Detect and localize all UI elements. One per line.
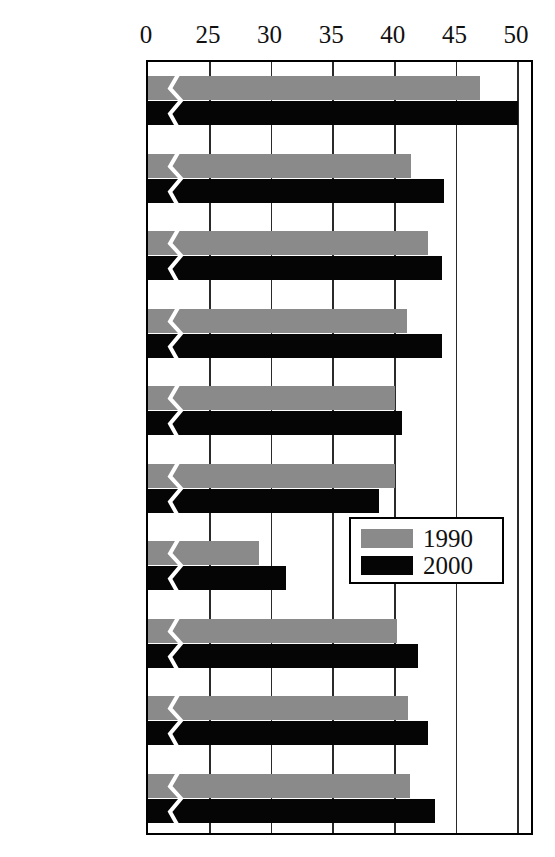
bar-2000-g7-average bbox=[148, 644, 418, 668]
legend-swatch-icon bbox=[361, 556, 413, 575]
bar-1990-britain bbox=[148, 386, 395, 410]
legend-item: 2000 bbox=[361, 553, 502, 578]
bar-1990-united-states bbox=[148, 541, 259, 565]
plot-area bbox=[146, 60, 533, 835]
x-axis-tick-label: 25 bbox=[196, 22, 221, 47]
bar-1990-g7-average bbox=[148, 619, 397, 643]
bar-1990-italy bbox=[148, 309, 407, 333]
bar-1990-oecd-excl-g7-average bbox=[148, 774, 410, 798]
legend-item: 1990 bbox=[361, 526, 502, 551]
bar-1990-oecd-average bbox=[148, 696, 408, 720]
bar-2000-britain bbox=[148, 411, 402, 435]
x-axis-tick-label: 40 bbox=[380, 22, 405, 47]
x-axis-tick-label: 35 bbox=[319, 22, 344, 47]
legend-swatch-icon bbox=[361, 529, 413, 548]
legend-label: 2000 bbox=[423, 553, 473, 578]
bar-chart: 0253035404550 FranceGermanyCanadaItalyBr… bbox=[0, 0, 555, 857]
bar-1990-france bbox=[148, 76, 480, 100]
gridline bbox=[456, 62, 458, 833]
bar-1990-canada bbox=[148, 231, 428, 255]
bar-2000-oecd-excl-g7-average bbox=[148, 799, 435, 823]
bar-1990-japan bbox=[148, 464, 395, 488]
x-axis-tick-label: 50 bbox=[504, 22, 529, 47]
bar-2000-oecd-average bbox=[148, 721, 428, 745]
bar-2000-france bbox=[148, 101, 518, 125]
bar-1990-germany bbox=[148, 154, 411, 178]
x-axis-tick-label: 0 bbox=[140, 22, 153, 47]
x-axis-tick-label: 45 bbox=[442, 22, 467, 47]
legend: 1990 2000 bbox=[349, 517, 504, 584]
gridline bbox=[517, 62, 519, 833]
bar-2000-germany bbox=[148, 179, 444, 203]
x-axis-tick-label: 30 bbox=[257, 22, 282, 47]
bar-2000-united-states bbox=[148, 566, 286, 590]
bar-2000-italy bbox=[148, 334, 442, 358]
bar-2000-japan bbox=[148, 489, 379, 513]
bar-2000-canada bbox=[148, 256, 442, 280]
legend-label: 1990 bbox=[423, 526, 473, 551]
